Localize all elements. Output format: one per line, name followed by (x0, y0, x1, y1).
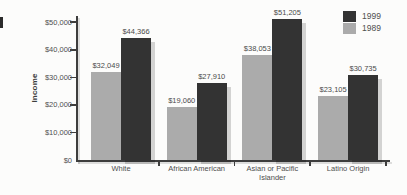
bar-value-label: $44,366 (106, 27, 166, 36)
bar-1999-3 (272, 19, 302, 160)
y-tick-label: $20,000 (24, 100, 72, 109)
bar-value-label: $30,735 (333, 64, 393, 73)
x-tick (385, 162, 387, 166)
y-tick-label: $50,000 (24, 18, 72, 27)
legend-swatch-1989 (343, 23, 356, 34)
legend-entry-1999: 1999 (343, 10, 381, 22)
bar-1989-4 (318, 96, 348, 160)
y-tick-label: $10,000 (24, 128, 72, 137)
bar-1989-2 (167, 107, 197, 160)
legend: 1999 1989 (343, 10, 381, 34)
bar-1989-3 (242, 55, 272, 160)
y-tick-label: $40,000 (24, 45, 72, 54)
legend-label-1999: 1999 (362, 11, 381, 21)
legend-swatch-1999 (343, 11, 356, 22)
bar-1999-2 (197, 83, 227, 160)
figure: Income $0$10,000$20,000$30,000$40,000$50… (0, 0, 407, 195)
y-axis (76, 16, 78, 162)
page-edge-fragment (0, 17, 3, 28)
legend-label-1989: 1989 (362, 23, 381, 33)
bar-1989-1 (91, 72, 121, 160)
y-tick-label: $30,000 (24, 73, 72, 82)
bar-value-label: $51,205 (257, 8, 317, 17)
bar-1999-4 (348, 75, 378, 160)
y-tick-label: $0 (24, 156, 72, 165)
bar-value-label: $27,910 (182, 72, 242, 81)
category-label: Latino Origin (300, 164, 396, 173)
legend-entry-1989: 1989 (343, 22, 381, 34)
bar-1999-1 (121, 38, 151, 160)
